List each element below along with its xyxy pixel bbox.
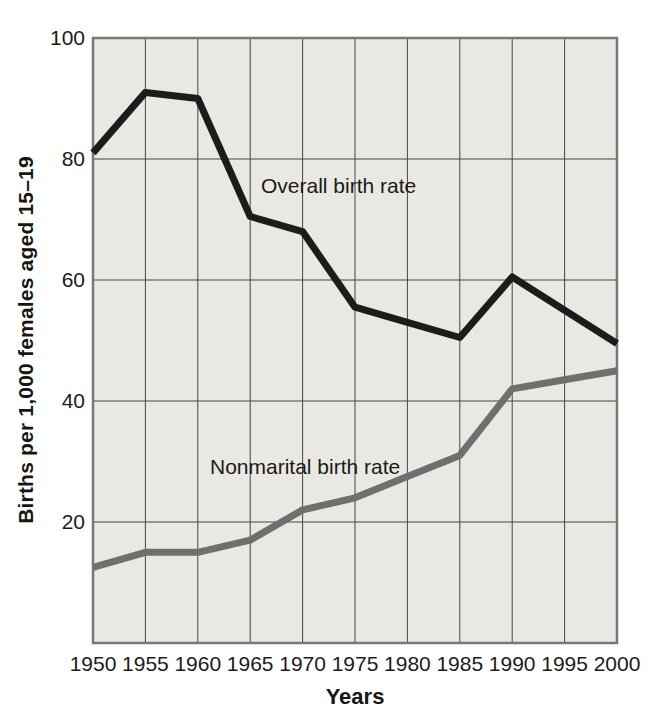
y-tick-label: 80	[62, 147, 85, 171]
x-tick-label: 1995	[541, 652, 588, 676]
x-tick-label: 1970	[279, 652, 326, 676]
x-tick-label: 1990	[489, 652, 536, 676]
x-tick-label: 1965	[227, 652, 274, 676]
x-tick-label: 1975	[332, 652, 379, 676]
plot-area: Overall birth rate Nonmarital birth rate	[93, 38, 617, 643]
series-label-nonmarital-birth-rate: Nonmarital birth rate	[210, 455, 400, 479]
x-tick-label: 1980	[384, 652, 431, 676]
series-label-overall-birth-rate: Overall birth rate	[261, 174, 416, 198]
birth-rate-chart-figure: Births per 1,000 females aged 15–19 Over…	[0, 0, 661, 715]
line-chart-svg	[93, 38, 617, 643]
x-tick-label: 1960	[174, 652, 221, 676]
y-tick-label: 40	[62, 389, 85, 413]
y-tick-label: 20	[62, 510, 85, 534]
y-tick-label: 60	[62, 268, 85, 292]
y-axis-title: Births per 1,000 females aged 15–19	[14, 156, 38, 524]
x-axis-title: Years	[326, 684, 385, 710]
x-tick-label: 1950	[70, 652, 117, 676]
x-tick-label: 1955	[122, 652, 169, 676]
x-tick-label: 2000	[594, 652, 641, 676]
y-tick-label: 100	[50, 26, 85, 50]
x-tick-label: 1985	[436, 652, 483, 676]
